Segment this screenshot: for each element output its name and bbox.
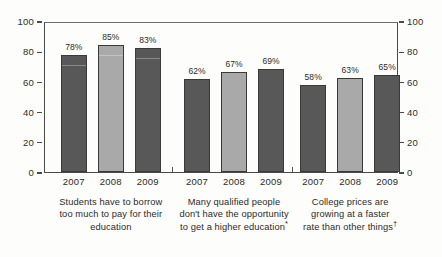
y-axis-left: 100 80 60 40 20 0 [0, 22, 42, 173]
group-separator-tick [292, 167, 293, 172]
year-labels: 200720082009200720082009200720082009 [45, 176, 397, 190]
bar-wrap: 83% [135, 22, 161, 172]
caption-line: education [49, 221, 173, 233]
bar-value-label: 58% [305, 72, 322, 82]
y-tick-mark [399, 172, 404, 173]
group-caption-2: Many qualified peopledon't have the oppo… [169, 196, 299, 233]
y-tick-mark [37, 21, 42, 22]
year-label-2008-group1: 2008 [100, 176, 122, 187]
y-tick-label-right-0: 0 [407, 168, 412, 178]
year-label-2007-group2: 2007 [186, 176, 208, 187]
bar-value-label: 78% [65, 42, 82, 52]
y-tick-label-left-20: 20 [23, 138, 34, 148]
bar-wrap: 62% [184, 22, 210, 172]
scan-artifact-line [62, 65, 86, 66]
bar-2009-group1 [135, 48, 161, 173]
y-tick-mark [37, 52, 42, 53]
group-caption-3: College prices aregrowing at a fasterrat… [291, 196, 409, 233]
y-tick-label-right-20: 20 [407, 138, 418, 148]
bar-2008-group3 [337, 78, 363, 173]
bar-value-label: 83% [139, 35, 156, 45]
caption-line: Students have to borrow [49, 196, 173, 208]
caption-line: rate than other things† [291, 221, 409, 233]
bar-value-label: 85% [102, 32, 119, 42]
bar-wrap: 65% [374, 22, 400, 172]
bar-2007-group1 [61, 55, 87, 172]
bar-value-label: 67% [225, 59, 242, 69]
y-tick-label-right-40: 40 [407, 108, 418, 118]
bar-wrap: 85% [98, 22, 124, 172]
scan-artifact-line [136, 58, 160, 59]
year-label-2009-group1: 2009 [137, 176, 159, 187]
bar-2009-group2 [258, 69, 284, 173]
caption-line: College prices are [291, 196, 409, 208]
caption-line: too much to pay for their [49, 208, 173, 220]
y-tick-label-left-40: 40 [23, 108, 34, 118]
bar-2008-group2 [221, 72, 247, 173]
year-label-2007-group3: 2007 [302, 176, 324, 187]
footnote-marker: † [393, 219, 397, 228]
group-caption-1: Students have to borrowtoo much to pay f… [49, 196, 173, 233]
bar-2007-group3 [300, 85, 326, 172]
year-label-2007-group1: 2007 [63, 176, 85, 187]
y-tick-mark [37, 82, 42, 83]
bar-value-label: 62% [188, 66, 205, 76]
y-tick-mark [37, 112, 42, 113]
bar-2007-group2 [184, 79, 210, 172]
caption-line: Many qualified people [169, 196, 299, 208]
group-captions: Students have to borrowtoo much to pay f… [45, 196, 397, 246]
y-axis-right: 100 80 60 40 20 0 [399, 22, 441, 173]
caption-line: don't have the opportunity [169, 208, 299, 220]
group-separator-tick [172, 167, 173, 172]
y-tick-label-right-60: 60 [407, 78, 418, 88]
y-tick-label-right-100: 100 [407, 17, 423, 27]
bar-wrap: 58% [300, 22, 326, 172]
year-label-2009-group3: 2009 [376, 176, 398, 187]
year-label-2008-group3: 2008 [339, 176, 361, 187]
caption-line: growing at a faster [291, 208, 409, 220]
y-tick-mark [37, 142, 42, 143]
bar-value-label: 69% [262, 56, 279, 66]
y-tick-label-right-80: 80 [407, 47, 418, 57]
year-label-2008-group2: 2008 [223, 176, 245, 187]
bar-value-label: 65% [379, 62, 396, 72]
year-label-2009-group2: 2009 [260, 176, 282, 187]
bar-value-label: 63% [342, 65, 359, 75]
bars-layer: 78%85%83%62%67%69%58%63%65% [45, 22, 397, 172]
y-tick-label-left-60: 60 [23, 78, 34, 88]
bar-wrap: 67% [221, 22, 247, 172]
y-tick-label-left-0: 0 [29, 168, 34, 178]
scan-artifact-line [99, 55, 123, 56]
bar-chart: 100 80 60 40 20 0 100 [0, 0, 442, 257]
bar-wrap: 78% [61, 22, 87, 172]
bar-wrap: 63% [337, 22, 363, 172]
bar-2009-group3 [374, 75, 400, 173]
bar-wrap: 69% [258, 22, 284, 172]
y-tick-label-left-100: 100 [18, 17, 34, 27]
y-tick-label-left-80: 80 [23, 47, 34, 57]
bar-2008-group1 [98, 45, 124, 173]
footnote-marker: * [285, 219, 288, 228]
y-tick-mark [37, 172, 42, 173]
caption-line: to get a higher education* [169, 221, 299, 233]
